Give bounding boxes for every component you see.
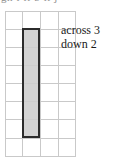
- shaded-rectangle: [22, 28, 40, 138]
- grid-line-horizontal: [5, 65, 76, 66]
- grid-line-horizontal: [5, 83, 76, 84]
- grid-line-vertical: [40, 11, 41, 157]
- grid-line-horizontal: [5, 138, 76, 139]
- grid-diagram-figure: gh i ll b ll j across 3 down 2: [0, 0, 113, 158]
- grid-line-vertical: [58, 11, 59, 157]
- grid-line-horizontal: [5, 11, 76, 12]
- annotation-labels: across 3 down 2: [61, 23, 113, 51]
- label-across: across 3: [61, 23, 113, 37]
- clipped-header-text: gh i ll b ll j: [1, 0, 58, 3]
- clipped-header-text-strip: gh i ll b ll j: [0, 0, 113, 9]
- grid-line-horizontal: [5, 119, 76, 120]
- grid-line-vertical: [5, 11, 6, 157]
- grid-line-horizontal: [5, 101, 76, 102]
- label-down: down 2: [61, 37, 113, 51]
- grid-line-horizontal: [5, 156, 76, 157]
